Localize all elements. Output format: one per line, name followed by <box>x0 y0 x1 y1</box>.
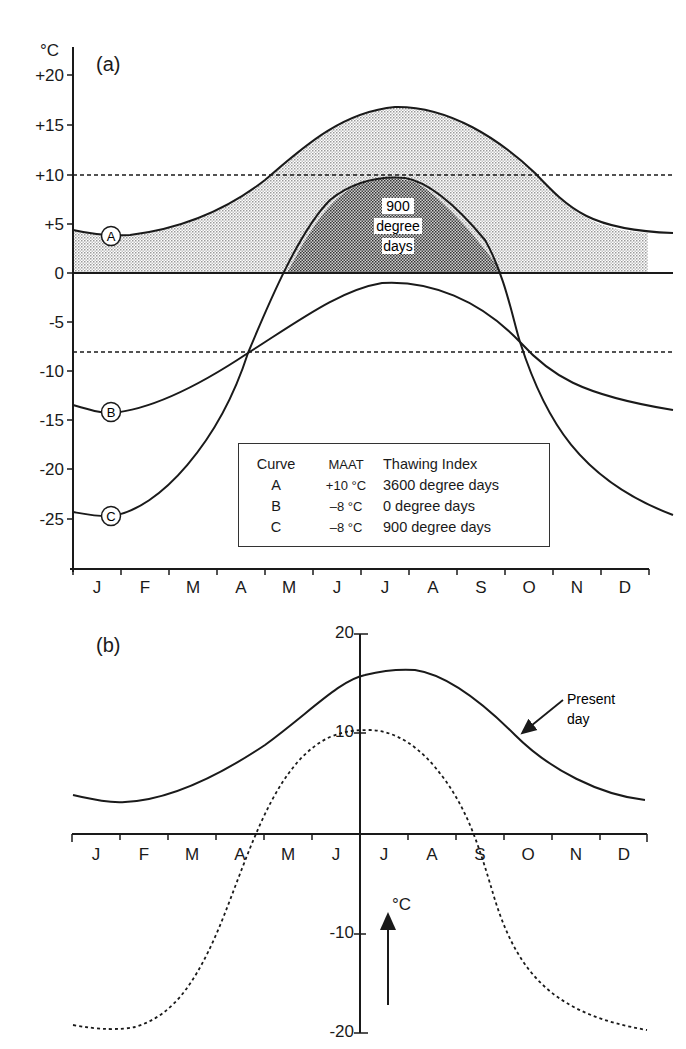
y-tick-label: +15 <box>35 116 64 135</box>
y-tick-label: +5 <box>45 215 64 234</box>
svg-text:D: D <box>618 845 630 864</box>
y-tick-label: -15 <box>39 411 64 430</box>
legend-header-curve: Curve <box>239 454 313 475</box>
y-tick-label-b: -20 <box>329 1022 354 1041</box>
y-tick-label: -10 <box>39 362 64 381</box>
svg-text:A: A <box>107 229 116 244</box>
y-unit-a: °C <box>40 41 59 60</box>
svg-text:F: F <box>140 578 150 597</box>
y-tick-label: +10 <box>35 166 64 185</box>
y-tick-label: 0 <box>55 264 64 283</box>
y-tick-label: -20 <box>39 460 64 479</box>
svg-text:A: A <box>235 578 247 597</box>
svg-text:S: S <box>474 845 485 864</box>
svg-text:D: D <box>619 578 631 597</box>
curve-a-label: A <box>102 227 121 246</box>
legend-curve: B <box>239 496 313 517</box>
legend-curve: A <box>239 475 313 496</box>
svg-text:J: J <box>92 845 101 864</box>
curve-c-label: C <box>102 507 121 526</box>
svg-text:M: M <box>282 578 296 597</box>
curve-b <box>73 283 673 413</box>
legend-header-row: Curve MAAT Thawing Index <box>239 454 549 475</box>
y-tick-label-b: 10 <box>335 722 354 741</box>
svg-text:J: J <box>93 578 102 597</box>
x-month-labels-a: J F M A M J J A S O N D <box>93 578 631 597</box>
legend-maat: –8 °C <box>313 496 379 517</box>
svg-text:C: C <box>106 509 115 524</box>
svg-text:days: days <box>383 238 413 254</box>
legend-thawing-index: 900 degree days <box>379 517 549 538</box>
svg-text:M: M <box>185 845 199 864</box>
legend-row: C –8 °C 900 degree days <box>239 517 549 538</box>
svg-text:O: O <box>522 578 535 597</box>
svg-text:A: A <box>427 578 439 597</box>
present-day-label-line2: day <box>567 711 590 727</box>
legend-row: B –8 °C 0 degree days <box>239 496 549 517</box>
svg-text:degree: degree <box>376 218 420 234</box>
svg-text:A: A <box>234 845 246 864</box>
svg-text:M: M <box>186 578 200 597</box>
legend-curve: C <box>239 517 313 538</box>
panel-a-label: (a) <box>96 53 120 75</box>
y-tick-label-b: -10 <box>329 923 354 942</box>
legend-box: Curve MAAT Thawing Index A +10 °C 3600 d… <box>238 443 550 547</box>
svg-text:F: F <box>139 845 149 864</box>
present-day-label-line1: Present <box>567 691 615 707</box>
y-tick-label: -5 <box>49 313 64 332</box>
legend-header-maat: MAAT <box>313 454 379 475</box>
svg-text:J: J <box>333 578 342 597</box>
y-tick-label: -25 <box>39 510 64 529</box>
svg-text:J: J <box>332 845 341 864</box>
svg-text:S: S <box>475 578 486 597</box>
legend-maat: –8 °C <box>313 517 379 538</box>
y-tick-label-b: 20 <box>335 623 354 642</box>
svg-text:J: J <box>381 578 390 597</box>
svg-text:M: M <box>281 845 295 864</box>
svg-text:A: A <box>426 845 438 864</box>
y-unit-b: °C <box>392 895 411 914</box>
svg-text:B: B <box>107 405 116 420</box>
legend-table: Curve MAAT Thawing Index A +10 °C 3600 d… <box>239 454 549 538</box>
svg-text:N: N <box>570 845 582 864</box>
panel-b: (b) J F M A M J J A S O N D <box>72 623 647 1041</box>
legend-thawing-index: 3600 degree days <box>379 475 549 496</box>
legend-thawing-index: 0 degree days <box>379 496 549 517</box>
present-day-arrow-icon <box>526 700 563 730</box>
svg-text:J: J <box>380 845 389 864</box>
y-tick-label: +20 <box>35 66 64 85</box>
svg-text:900: 900 <box>386 198 410 214</box>
svg-text:O: O <box>521 845 534 864</box>
legend-header-thawing-index: Thawing Index <box>379 454 549 475</box>
legend-maat: +10 °C <box>313 475 379 496</box>
legend-row: A +10 °C 3600 degree days <box>239 475 549 496</box>
svg-text:N: N <box>571 578 583 597</box>
curve-b-label: B <box>102 403 121 422</box>
panel-b-label: (b) <box>96 634 120 656</box>
